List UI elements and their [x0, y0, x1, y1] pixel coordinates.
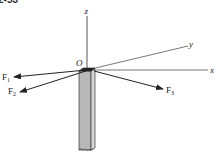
- x-axis-label: x: [209, 65, 214, 75]
- force-f1-label: F1: [2, 72, 10, 83]
- force-diagram: 2-53 z y x O F1 F2 F3: [0, 0, 219, 152]
- z-axis-label: z: [84, 6, 89, 16]
- force-f3-label: F3: [166, 85, 174, 96]
- post: [79, 68, 95, 151]
- force-f1-arrow: [14, 70, 86, 77]
- post-side-face: [91, 69, 95, 150]
- force-f3-arrow: [94, 71, 163, 89]
- force-f2-arrow: [20, 71, 86, 92]
- force-f2-label: F2: [8, 86, 16, 97]
- y-axis: [87, 46, 188, 70]
- post-front-face: [79, 71, 91, 150]
- figure-number: 2-53: [0, 0, 18, 5]
- y-axis-label: y: [188, 39, 193, 49]
- origin-label: O: [76, 58, 83, 68]
